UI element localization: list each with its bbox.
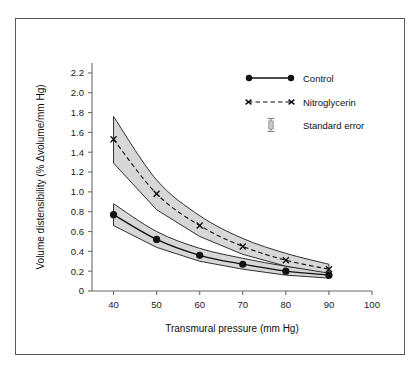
x-tick-label: 70 <box>237 299 248 310</box>
y-tick-label: 0.6 <box>71 226 84 237</box>
y-axis-ticks: 00.20.40.60.81.01.21.41.61.82.02.2 <box>71 67 92 296</box>
x-axis-ticks: 405060708090100 <box>108 291 380 310</box>
legend-label-control: Control <box>303 73 334 84</box>
data-point-marker <box>196 252 203 259</box>
y-tick-label: 0.8 <box>71 206 84 217</box>
y-tick-label: 1.8 <box>71 107 84 118</box>
figure-frame: 00.20.40.60.81.01.21.41.61.82.02.2 40506… <box>15 18 405 355</box>
y-tick-label: 0.4 <box>71 246 84 257</box>
errorbar-icon <box>268 119 275 132</box>
y-tick-label: 0 <box>79 285 84 296</box>
x-tick-label: 50 <box>151 299 162 310</box>
y-tick-label: 2.2 <box>71 67 84 78</box>
legend-marker-circle-right <box>288 75 294 81</box>
legend-item-nitroglycerin: Nitroglycerin <box>246 97 356 108</box>
x-tick-label: 80 <box>281 299 292 310</box>
series-line <box>114 139 329 269</box>
legend-label-nitroglycerin: Nitroglycerin <box>303 97 356 108</box>
y-tick-label: 1.0 <box>71 186 84 197</box>
x-tick-label: 90 <box>324 299 335 310</box>
standard-error-bands <box>114 117 329 279</box>
y-tick-label: 0.2 <box>71 266 84 277</box>
y-tick-label: 1.6 <box>71 127 84 138</box>
y-tick-label: 2.0 <box>71 87 84 98</box>
y-tick-label: 1.4 <box>71 147 84 158</box>
standard-error-band <box>114 117 329 274</box>
legend-label-standard-error: Standard error <box>303 120 364 131</box>
data-point-marker <box>110 211 117 218</box>
data-point-marker <box>239 261 246 268</box>
legend-item-standard-error: Standard error <box>268 119 365 132</box>
x-tick-label: 60 <box>194 299 205 310</box>
x-tick-label: 40 <box>108 299 119 310</box>
chart-canvas: 00.20.40.60.81.01.21.41.61.82.02.2 40506… <box>16 19 406 356</box>
x-axis-title: Transmural pressure (mm Hg) <box>165 323 299 334</box>
data-point-marker <box>153 236 160 243</box>
chart-legend: Control Nitroglycerin <box>246 73 365 132</box>
y-axis-title: Volume distensibility (% Δvolume/mm Hg) <box>35 84 46 269</box>
legend-item-control: Control <box>246 73 334 84</box>
data-point-marker <box>282 268 289 275</box>
legend-marker-circle-left <box>246 75 252 81</box>
x-tick-label: 100 <box>364 299 380 310</box>
y-tick-label: 1.2 <box>71 166 84 177</box>
